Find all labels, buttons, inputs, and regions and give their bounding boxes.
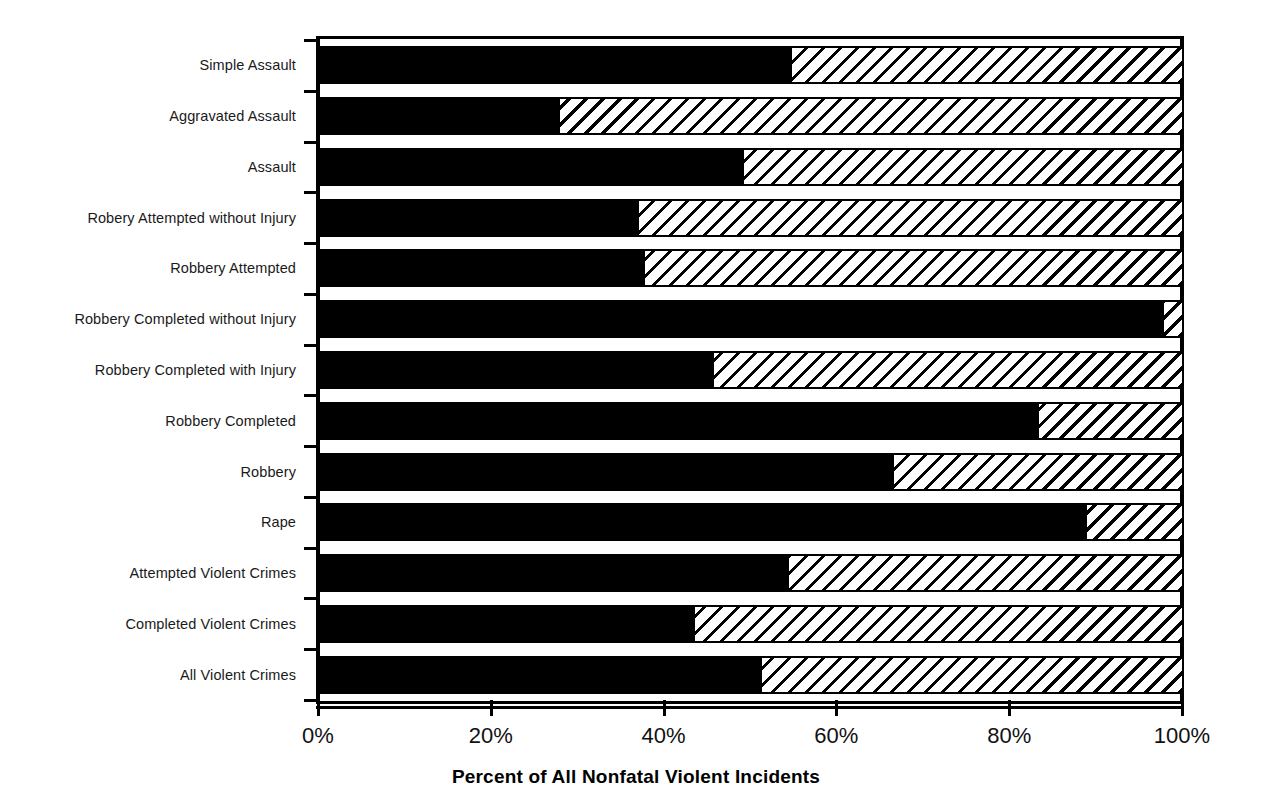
bar-segment-hatched [760, 658, 1182, 692]
bar-row [318, 300, 1182, 338]
category-label: Completed Violent Crimes [0, 616, 306, 632]
category-label: Robbery Completed without Injury [0, 311, 306, 327]
bar-segment-solid [318, 556, 787, 590]
category-tick [304, 648, 320, 651]
bar-segment-solid [318, 505, 1085, 539]
category-label: Robbery Attempted [0, 260, 306, 276]
bar-row [318, 453, 1182, 491]
bar-row [318, 656, 1182, 694]
category-tick [304, 141, 320, 144]
value-tick [1008, 700, 1011, 716]
value-tick [490, 700, 493, 716]
bar-segment-hatched [742, 150, 1182, 184]
bar-segment-hatched [790, 48, 1182, 82]
value-axis-title: Percent of All Nonfatal Violent Incident… [0, 766, 1272, 788]
bar-segment-hatched [1037, 404, 1182, 438]
category-label: Robbery Completed with Injury [0, 362, 306, 378]
bar-segment-solid [318, 251, 643, 285]
category-label: Robbery Completed [0, 413, 306, 429]
value-tick-label: 60% [776, 723, 896, 749]
bar-segment-solid [318, 404, 1037, 438]
value-tick-label: 80% [949, 723, 1069, 749]
category-tick [304, 242, 320, 245]
bar-segment-hatched [892, 455, 1182, 489]
category-tick [304, 39, 320, 42]
bar-row [318, 554, 1182, 592]
category-tick [304, 597, 320, 600]
category-label: Robbery [0, 464, 306, 480]
bar-row [318, 351, 1182, 389]
bar-segment-hatched [712, 353, 1182, 387]
category-tick [304, 293, 320, 296]
bar-row [318, 97, 1182, 135]
bar-segment-hatched [1085, 505, 1182, 539]
category-tick [304, 445, 320, 448]
category-tick [304, 191, 320, 194]
value-tick-label: 40% [604, 723, 724, 749]
value-tick [835, 700, 838, 716]
axis-bottom-spine [316, 701, 1184, 704]
bar-row [318, 199, 1182, 237]
bar-row [318, 503, 1182, 541]
bar-segment-solid [318, 353, 712, 387]
value-tick-label: 100% [1122, 723, 1242, 749]
bar-row [318, 249, 1182, 287]
category-label: All Violent Crimes [0, 667, 306, 683]
bar-segment-solid [318, 455, 892, 489]
category-tick [304, 90, 320, 93]
value-tick-label: 0% [258, 723, 378, 749]
bar-segment-solid [318, 150, 742, 184]
bar-segment-solid [318, 201, 637, 235]
horizontal-stacked-bar-chart: Simple AssaultAggravated AssaultAssaultR… [0, 0, 1272, 805]
category-axis-labels: Simple AssaultAggravated AssaultAssaultR… [0, 40, 306, 700]
value-tick [317, 700, 320, 716]
category-tick [304, 547, 320, 550]
value-tick [663, 700, 666, 716]
category-tick [304, 496, 320, 499]
category-tick [304, 394, 320, 397]
bar-segment-solid [318, 607, 693, 641]
category-label: Rape [0, 514, 306, 530]
category-label: Robery Attempted without Injury [0, 210, 306, 226]
plot-area [318, 40, 1182, 700]
bar-segment-hatched [558, 99, 1182, 133]
category-tick [304, 344, 320, 347]
bar-segment-solid [318, 48, 790, 82]
value-tick [1181, 700, 1184, 716]
category-label: Assault [0, 159, 306, 175]
bar-segment-hatched [787, 556, 1182, 590]
axis-top-spine [316, 36, 1184, 39]
bar-row [318, 46, 1182, 84]
bar-segment-hatched [637, 201, 1182, 235]
bar-row [318, 148, 1182, 186]
bar-segment-hatched [643, 251, 1182, 285]
bar-segment-hatched [693, 607, 1182, 641]
category-label: Simple Assault [0, 57, 306, 73]
value-tick-label: 20% [431, 723, 551, 749]
bar-segment-hatched [1162, 302, 1182, 336]
bar-segment-solid [318, 99, 558, 133]
bar-segment-solid [318, 302, 1162, 336]
category-label: Attempted Violent Crimes [0, 565, 306, 581]
category-label: Aggravated Assault [0, 108, 306, 124]
bar-segment-solid [318, 658, 760, 692]
bar-row [318, 605, 1182, 643]
value-axis-line [316, 706, 1184, 709]
bar-row [318, 402, 1182, 440]
